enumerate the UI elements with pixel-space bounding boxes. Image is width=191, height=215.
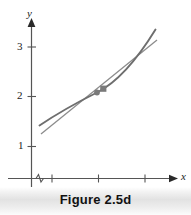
caption-band: Figure 2.5d (0, 187, 191, 215)
y-tick-label-3: 3 (17, 41, 23, 52)
figure-container: y x 3 2 1 0.6 1.0 1.4 Figure 2.5d (0, 0, 191, 215)
x-axis-arrow-icon (169, 175, 178, 182)
x-axis-label: x (181, 171, 186, 182)
plot-svg (0, 0, 191, 191)
figure-caption: Figure 2.5d (0, 192, 191, 207)
data-point-1 (94, 90, 100, 96)
y-tick-label-1: 1 (18, 140, 24, 151)
y-tick-label-2: 2 (17, 90, 23, 101)
data-point-2 (100, 86, 106, 92)
y-axis-arrow-icon (28, 18, 36, 27)
y-axis-label: y (27, 8, 32, 19)
function-curve (40, 30, 156, 126)
